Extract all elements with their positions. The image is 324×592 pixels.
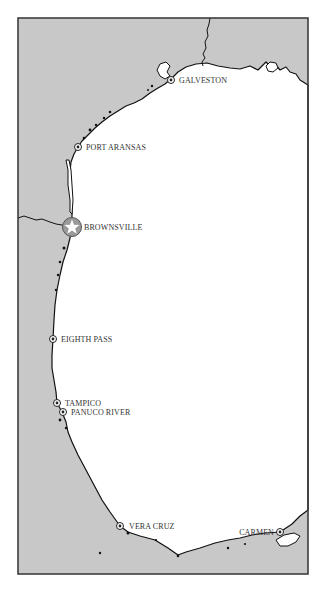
city-panuco-river[interactable]: PANUCO RIVER [60,408,131,417]
city-port-aransas[interactable]: PORT ARANSAS [75,143,146,152]
city-label: BROWNSVILLE [84,223,142,232]
city-label: VERA CRUZ [129,522,175,531]
city-dot-icon [56,402,59,405]
city-label: TAMPICO [65,399,101,408]
city-dot-icon [279,531,282,534]
city-dot-icon [62,411,65,414]
city-dot-icon [119,525,122,528]
city-label: PORT ARANSAS [86,143,146,152]
city-label: GALVESTON [179,76,227,85]
city-label: CARMEN [239,528,274,537]
gulf-coast-map: GALVESTON PORT ARANSAS BROWNSVILLE EIGHT… [0,0,324,592]
city-dot-icon [170,79,173,82]
city-label: PANUCO RIVER [71,408,131,417]
city-dot-icon [77,146,80,149]
city-dot-icon [52,338,55,341]
city-label: EIGHTH PASS [61,335,112,344]
